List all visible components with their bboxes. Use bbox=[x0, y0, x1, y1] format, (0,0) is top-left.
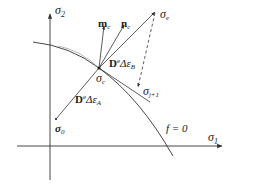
increment-a-label: DeΔεA bbox=[75, 93, 102, 107]
return-path-dashed bbox=[138, 13, 155, 87]
sigma-j1-label: σj+1 bbox=[143, 84, 159, 99]
sigma-c-point bbox=[97, 66, 100, 69]
sigma2-axis-label: σ2 bbox=[55, 3, 65, 19]
sigma-c-label: σc bbox=[96, 71, 106, 86]
sigma1-axis-label: σ1 bbox=[208, 130, 218, 146]
sigma-e-label: σe bbox=[160, 7, 169, 22]
yield-surface-curve bbox=[33, 42, 173, 156]
m-c-label: mc bbox=[98, 17, 111, 31]
yield-surface-label: f = 0 bbox=[166, 122, 188, 134]
sigma-0-point bbox=[55, 118, 57, 120]
increment-b-label: DeΔεB bbox=[109, 57, 136, 71]
stress-return-diagram: σ2 σ1 mc nc σe σc σ0 σj+1 DeΔεB DeΔεA f … bbox=[0, 0, 261, 193]
sigma-0-label: σ0 bbox=[55, 122, 65, 136]
m-c-vector bbox=[99, 26, 104, 68]
n-c-label: nc bbox=[121, 17, 131, 31]
